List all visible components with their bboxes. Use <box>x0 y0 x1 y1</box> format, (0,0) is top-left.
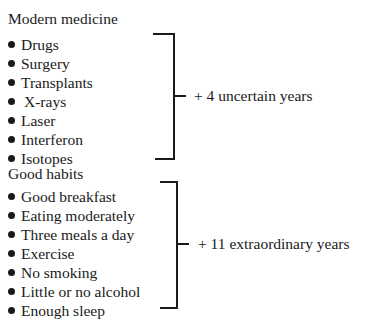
group-heading: Modern medicine <box>8 10 118 28</box>
bullet-icon <box>8 288 15 295</box>
list-item: Interferon <box>8 131 83 149</box>
bullet-icon <box>8 212 15 219</box>
list-item: Drugs <box>8 36 59 54</box>
list-item: Little or no alcohol <box>8 283 140 301</box>
bullet-icon <box>8 60 15 67</box>
list-item: Eating moderately <box>8 207 135 225</box>
bullet-icon <box>8 155 15 162</box>
group-heading: Good habits <box>8 165 83 183</box>
bullet-icon <box>8 117 15 124</box>
bullet-icon <box>8 269 15 276</box>
result-label: + 4 uncertain years <box>194 87 312 105</box>
bullet-icon <box>8 307 15 314</box>
list-item: Laser <box>8 112 55 130</box>
bullet-icon <box>8 98 15 105</box>
bullet-icon <box>8 136 15 143</box>
bullet-icon <box>8 231 15 238</box>
bullet-icon <box>8 250 15 257</box>
list-item: Good breakfast <box>8 188 116 206</box>
list-item: No smoking <box>8 264 97 282</box>
list-item: X-rays <box>8 93 66 111</box>
list-item: Transplants <box>8 74 93 92</box>
result-label: + 11 extraordinary years <box>198 235 349 253</box>
list-item: Enough sleep <box>8 302 105 320</box>
list-item: Three meals a day <box>8 226 134 244</box>
bullet-icon <box>8 41 15 48</box>
list-item: Exercise <box>8 245 74 263</box>
list-item: Surgery <box>8 55 70 73</box>
bullet-icon <box>8 193 15 200</box>
bullet-icon <box>8 79 15 86</box>
